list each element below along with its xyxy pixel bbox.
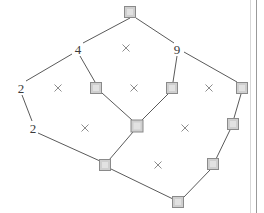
vertex-label-2-upper[interactable]: 2: [18, 82, 25, 95]
cross-mark-left-lower: [82, 125, 89, 132]
node-center-highlight: [134, 123, 141, 130]
node-center[interactable]: [131, 120, 143, 132]
nodes-group: [91, 7, 248, 208]
edge-bottom-left-to-bottom: [111, 169, 173, 199]
node-right-upper[interactable]: [228, 119, 239, 130]
cross-mark-bottom-center: [155, 162, 162, 169]
node-far-right[interactable]: [237, 83, 248, 94]
node-bottom-left-highlight: [102, 162, 108, 168]
edge-right-lower-to-bottom: [183, 170, 210, 198]
node-mid-left-highlight: [93, 85, 99, 91]
edge-center-to-bottom-left: [109, 132, 133, 160]
node-mid-left[interactable]: [91, 83, 102, 94]
node-mid-right-highlight: [169, 85, 175, 91]
edge-4-to-2-upper: [26, 54, 72, 81]
edge-4-to-mid-left: [80, 56, 95, 82]
edge-2-upper-to-2-lower: [22, 95, 32, 121]
panel-edge-divider: [250, 0, 251, 213]
node-bottom-left[interactable]: [100, 160, 111, 171]
cross-mark-center-upper: [131, 85, 138, 92]
node-mid-right[interactable]: [167, 83, 178, 94]
cross-mark-right-lower: [182, 125, 189, 132]
cross-mark-top-center: [123, 45, 130, 52]
edges-group: [22, 18, 241, 199]
cross-marks-group: [55, 45, 213, 169]
cross-mark-right-upper: [206, 85, 213, 92]
diagram-canvas: 4922: [0, 0, 264, 213]
edge-top-to-4: [83, 18, 130, 43]
vertex-label-2-lower[interactable]: 2: [30, 122, 37, 135]
vertex-label-9[interactable]: 9: [174, 43, 181, 56]
node-top[interactable]: [125, 7, 136, 18]
node-bottom-highlight: [175, 199, 181, 205]
edge-far-right-to-right-upper: [234, 94, 241, 118]
edge-9-to-far-right: [184, 52, 237, 82]
node-right-upper-highlight: [230, 121, 236, 127]
edge-mid-left-to-center: [102, 93, 132, 120]
node-right-lower-highlight: [210, 161, 216, 167]
edge-2-lower-to-bottom-left: [38, 133, 100, 161]
edge-9-to-mid-right: [173, 56, 177, 82]
cross-mark-left-upper: [55, 85, 62, 92]
right-border-line: [256, 0, 257, 213]
vertex-label-4[interactable]: 4: [75, 43, 82, 56]
node-right-lower[interactable]: [208, 159, 219, 170]
node-bottom[interactable]: [173, 197, 184, 208]
node-far-right-highlight: [239, 85, 245, 91]
edge-top-to-9: [136, 18, 174, 43]
graph-svg: [0, 0, 264, 213]
node-top-highlight: [127, 9, 133, 15]
edge-mid-right-to-center: [142, 94, 168, 120]
edge-right-upper-to-right-lower: [216, 130, 230, 159]
